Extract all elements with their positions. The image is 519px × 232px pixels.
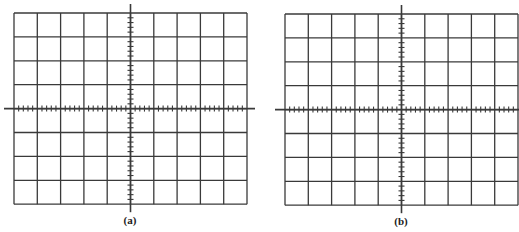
graticule-panel-b: (b)	[0, 0, 260, 232]
graticule-b	[0, 0, 519, 232]
panel-label-b: (b)	[394, 215, 407, 227]
